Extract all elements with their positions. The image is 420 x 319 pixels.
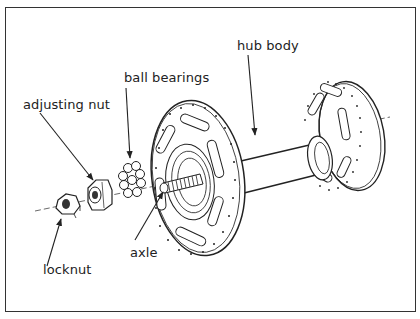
label-axle: axle xyxy=(130,245,158,260)
adjusting-nut xyxy=(88,180,112,210)
label-ball-bearings: ball bearings xyxy=(124,70,209,85)
label-locknut: locknut xyxy=(43,262,92,277)
ball-bearings-cluster xyxy=(119,162,146,198)
label-hub-body: hub body xyxy=(237,38,299,53)
label-adjusting-nut: adjusting nut xyxy=(23,97,110,112)
locknut xyxy=(56,194,80,218)
